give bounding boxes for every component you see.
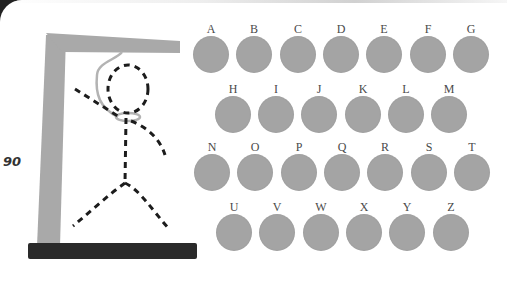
figure-right-arm [131,121,165,155]
key-c[interactable]: C [280,22,316,72]
key-d[interactable]: D [323,22,359,72]
key-disc[interactable] [411,154,447,191]
key-t[interactable]: T [454,140,490,190]
key-label: S [411,140,447,154]
key-label: O [237,140,273,154]
key-disc[interactable] [366,36,402,73]
key-label: Q [324,140,360,154]
key-disc[interactable] [323,36,359,73]
key-n[interactable]: N [194,140,230,190]
key-label: C [280,22,316,36]
key-y[interactable]: Y [389,200,425,250]
key-label: D [323,22,359,36]
key-disc[interactable] [194,154,230,191]
key-disc[interactable] [215,96,251,133]
key-disc[interactable] [388,96,424,133]
key-label: Y [389,200,425,214]
key-label: A [193,22,229,36]
key-label: H [215,82,251,96]
key-label: I [258,82,294,96]
key-label: N [194,140,230,154]
key-disc[interactable] [280,36,316,73]
key-g[interactable]: G [453,22,489,72]
key-m[interactable]: M [431,82,467,132]
key-label: P [281,140,317,154]
key-label: W [303,200,339,214]
key-v[interactable]: V [259,200,295,250]
key-x[interactable]: X [346,200,382,250]
key-f[interactable]: F [410,22,446,72]
key-disc[interactable] [453,36,489,73]
key-w[interactable]: W [303,200,339,250]
key-a[interactable]: A [193,22,229,72]
key-disc[interactable] [431,96,467,133]
key-label: E [366,22,402,36]
key-label: G [453,22,489,36]
key-disc[interactable] [259,214,295,251]
key-disc[interactable] [346,214,382,251]
key-label: B [236,22,272,36]
key-disc[interactable] [258,96,294,133]
key-j[interactable]: J [301,82,337,132]
stick-figure [73,65,170,230]
key-disc[interactable] [193,36,229,73]
key-k[interactable]: K [345,82,381,132]
key-disc[interactable] [410,36,446,73]
key-label: L [388,82,424,96]
gallows-base [28,243,197,259]
key-label: R [367,140,403,154]
figure-left-leg [73,183,125,226]
key-label: J [301,82,337,96]
key-disc[interactable] [303,214,339,251]
key-label: F [410,22,446,36]
key-label: M [431,82,467,96]
key-s[interactable]: S [411,140,447,190]
key-i[interactable]: I [258,82,294,132]
key-disc[interactable] [389,214,425,251]
key-disc[interactable] [301,96,337,133]
key-disc[interactable] [236,36,272,73]
gallows [28,33,197,259]
figure-right-leg [125,183,170,230]
gallows-beam [46,33,180,53]
key-disc[interactable] [433,214,469,251]
key-label: T [454,140,490,154]
key-u[interactable]: U [216,200,252,250]
key-label: K [345,82,381,96]
key-disc[interactable] [216,214,252,251]
gallows-pole [37,35,66,246]
rope [97,52,122,117]
key-label: Z [433,200,469,214]
key-label: V [259,200,295,214]
game-screen: 90 A B C D E F G H I J K [0,0,507,284]
key-q[interactable]: Q [324,140,360,190]
key-label: X [346,200,382,214]
key-disc[interactable] [454,154,490,191]
key-h[interactable]: H [215,82,251,132]
figure-head [108,65,148,113]
key-b[interactable]: B [236,22,272,72]
key-disc[interactable] [281,154,317,191]
key-r[interactable]: R [367,140,403,190]
figure-body [125,118,126,183]
key-e[interactable]: E [366,22,402,72]
key-label: U [216,200,252,214]
key-disc[interactable] [237,154,273,191]
key-o[interactable]: O [237,140,273,190]
key-z[interactable]: Z [433,200,469,250]
key-p[interactable]: P [281,140,317,190]
key-l[interactable]: L [388,82,424,132]
key-disc[interactable] [345,96,381,133]
key-disc[interactable] [324,154,360,191]
key-disc[interactable] [367,154,403,191]
